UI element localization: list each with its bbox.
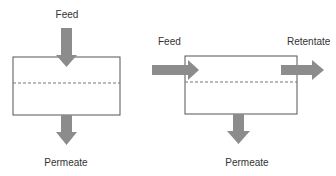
permeate-arrow-icon (56, 115, 77, 145)
feed-label: Feed (56, 9, 79, 20)
feed-arrow-icon (56, 28, 77, 67)
retentate-arrow-icon (281, 60, 324, 80)
retentate-label: Retentate (287, 36, 331, 47)
feed-arrow-icon (152, 60, 199, 80)
dead-end-diagram: Feed Permeate (13, 9, 120, 168)
permeate-arrow-icon (227, 114, 250, 144)
membrane-module (185, 56, 297, 114)
filtration-diagrams: Feed Permeate Feed Retentate Permeate (0, 0, 336, 176)
feed-label: Feed (158, 36, 181, 47)
permeate-label: Permeate (225, 157, 269, 168)
permeate-label: Permeate (44, 157, 88, 168)
cross-flow-diagram: Feed Retentate Permeate (152, 36, 331, 168)
